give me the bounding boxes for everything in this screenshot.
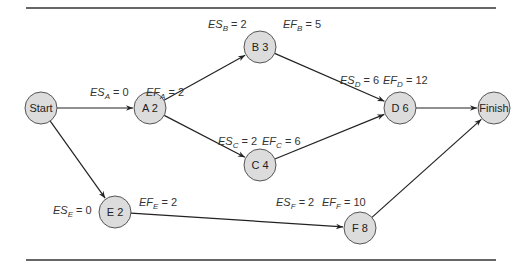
node-start: Start [25, 92, 57, 124]
node-label: Finish [479, 102, 508, 114]
node-label: D 6 [391, 102, 408, 114]
node-C: C 4 [244, 149, 276, 181]
ef-label-F: EFF = 10 [322, 196, 366, 211]
es-label-B: ESB = 2 [208, 18, 247, 33]
node-label: Start [29, 102, 52, 114]
arrow-E-to-F [131, 213, 343, 227]
annotations: ESA = 0EFA = 2ESB = 2EFB = 5ESC = 2EFC =… [53, 18, 428, 219]
ef-label-D: EFD = 12 [383, 74, 428, 89]
node-label: A 2 [142, 102, 158, 114]
node-F: F 8 [344, 212, 376, 244]
es-label-C: ESC = 2 [218, 135, 257, 150]
es-label-F: ESF = 2 [276, 196, 314, 211]
es-label-D: ESD = 6 [340, 74, 379, 89]
node-finish: Finish [478, 92, 510, 124]
es-label-E: ESE = 0 [53, 204, 92, 219]
es-label-A: ESA = 0 [90, 86, 129, 101]
node-label: E 2 [107, 206, 124, 218]
node-label: B 3 [252, 41, 269, 53]
node-E: E 2 [99, 196, 131, 228]
ef-label-E: EFE = 2 [139, 196, 177, 211]
network-diagram: StartA 2B 3C 4D 6FinishE 2F 8 ESA = 0EFA… [0, 0, 521, 267]
node-D: D 6 [384, 92, 416, 124]
arrow-F-to-finish [372, 119, 481, 217]
arrow-start-to-E [50, 121, 105, 198]
ef-label-B: EFB = 5 [283, 18, 321, 33]
node-B: B 3 [244, 31, 276, 63]
node-label: C 4 [251, 159, 268, 171]
arrow-A-to-C [164, 115, 245, 157]
node-label: F 8 [352, 222, 368, 234]
ef-label-C: EFC = 6 [262, 135, 301, 150]
diagram-canvas: StartA 2B 3C 4D 6FinishE 2F 8 ESA = 0EFA… [0, 0, 521, 267]
